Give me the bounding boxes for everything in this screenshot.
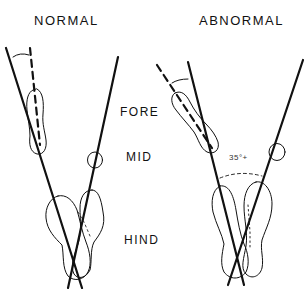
normal-hind-paw-left	[46, 196, 90, 280]
normal-left-axis-line	[6, 48, 82, 288]
mid-label: MID	[126, 151, 153, 163]
normal-hind-paw-right	[72, 190, 103, 277]
fore-label: FORE	[120, 106, 159, 118]
hind-label: HIND	[124, 234, 159, 246]
abnormal-angle-arc	[172, 79, 188, 83]
abnormal-fore-paw	[172, 92, 219, 153]
normal-title: NORMAL	[34, 14, 99, 27]
abnormal-right-axis-line	[228, 60, 303, 285]
angle-label: 35°+	[229, 154, 248, 162]
abnormal-left-axis-line	[188, 62, 244, 285]
normal-angle-arc	[13, 54, 29, 57]
normal-right-axis-line	[68, 57, 118, 288]
abnormal-title: ABNORMAL	[199, 14, 284, 27]
paw-placement-diagram: NORMAL ABNORMAL FORE MID HIND 35°+	[0, 0, 305, 289]
abnormal-dashed-reference-line	[157, 65, 212, 148]
normal-diagram	[6, 48, 118, 288]
abnormal-diagram	[157, 60, 303, 285]
abnormal-angle-dashed-arc	[220, 173, 262, 178]
